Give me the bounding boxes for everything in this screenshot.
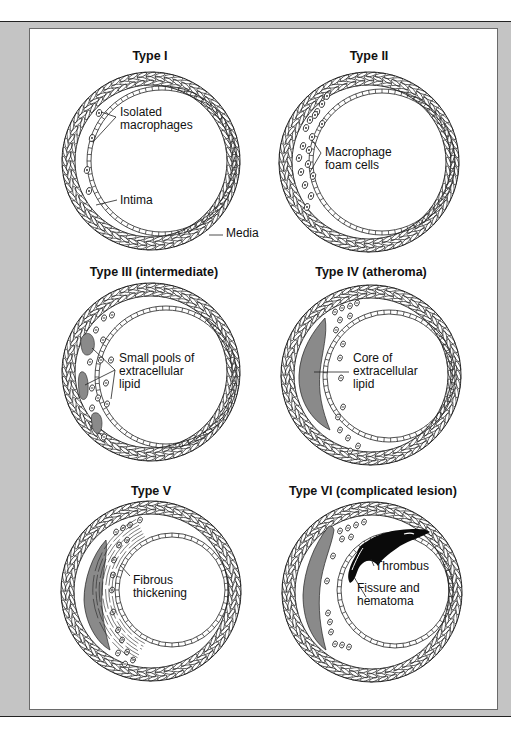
panel-title: Type IV (atheroma) bbox=[315, 265, 427, 279]
label-intima: Intima bbox=[120, 193, 153, 207]
lesion-type-3: Type III (intermediate)Small pools ofext… bbox=[61, 265, 240, 462]
lesion-type-5: Type VFibrousthickening bbox=[60, 484, 242, 682]
label-core-of-extracellular-lipid: Core ofextracellularlipid bbox=[353, 351, 418, 391]
label-media: Media bbox=[226, 226, 259, 240]
label-macrophage-foam-cells: Macrophagefoam cells bbox=[325, 145, 392, 172]
panel-title: Type V bbox=[131, 484, 172, 498]
lipid-pool bbox=[78, 372, 88, 400]
panel-title: Type VI (complicated lesion) bbox=[289, 484, 457, 498]
panel-title: Type III (intermediate) bbox=[90, 265, 218, 279]
atherosclerosis-lesion-types-diagram: Type IIsolatedmacrophagesIntimaMediaType… bbox=[0, 0, 525, 731]
panel-title: Type II bbox=[350, 49, 389, 63]
label-small-pools-of-extracellular-lipid: Small pools ofextracellularlipid bbox=[119, 351, 195, 391]
lesion-type-6: Type VI (complicated lesion)ThrombusFiss… bbox=[281, 484, 463, 683]
lipid-pool bbox=[81, 333, 95, 355]
lesion-type-1: Type IIsolatedmacrophagesIntimaMedia bbox=[61, 49, 259, 251]
label-isolated-macrophages: Isolatedmacrophages bbox=[120, 105, 193, 132]
label-fissure-and-hematoma: Fissure andhematoma bbox=[357, 581, 420, 608]
lipid-pool bbox=[91, 413, 102, 434]
label-thrombus: Thrombus bbox=[375, 559, 429, 573]
lesion-type-2: Type IIMacrophagefoam cells bbox=[278, 49, 460, 253]
panel-title: Type I bbox=[132, 49, 167, 63]
thrombus bbox=[348, 529, 430, 583]
label-fibrous-thickening: Fibrousthickening bbox=[133, 573, 187, 600]
lesion-type-4: Type IV (atheroma)Core ofextracellularli… bbox=[280, 265, 462, 466]
